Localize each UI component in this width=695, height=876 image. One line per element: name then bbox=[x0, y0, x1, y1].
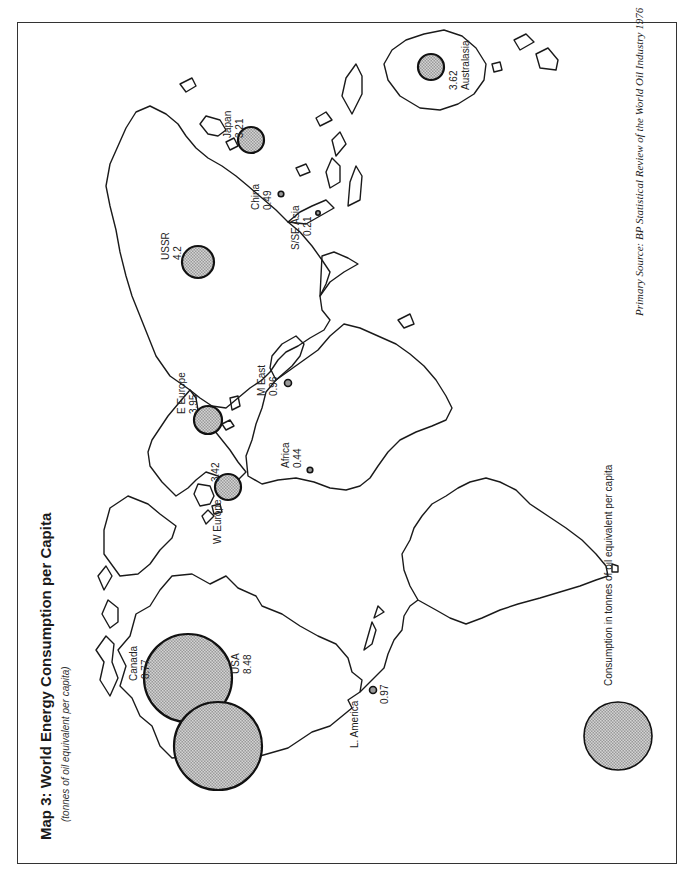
label-canada: Canada 8.77 bbox=[128, 646, 152, 681]
world-map bbox=[0, 0, 695, 876]
bubble-m-east bbox=[285, 380, 292, 387]
greenland-outline bbox=[104, 496, 176, 576]
bubble-africa bbox=[307, 467, 313, 473]
bubble-s-se-asia bbox=[316, 211, 320, 215]
british-isles-outline bbox=[194, 484, 214, 506]
asia-outline bbox=[106, 106, 330, 408]
bubble-l-america bbox=[370, 687, 377, 694]
bubble-usa bbox=[174, 702, 262, 790]
legend-label: Consumption in tonnes of oil equivalent … bbox=[603, 465, 614, 686]
rotated-map-sheet: Map 3: World Energy Consumption per Capi… bbox=[0, 0, 695, 876]
label-e-europe: E Europe 3.95 bbox=[176, 372, 200, 414]
bubble-australasia bbox=[418, 54, 444, 80]
new-zealand-outline bbox=[514, 34, 534, 50]
label-africa: Africa 0.44 bbox=[280, 442, 304, 468]
new-guinea-outline bbox=[342, 64, 362, 114]
label-usa: USA 8.48 bbox=[230, 653, 254, 674]
label-ussr: USSR 4.2 bbox=[160, 232, 184, 260]
arctic-islands-outline bbox=[96, 636, 118, 696]
label-china: China 0.49 bbox=[250, 184, 274, 210]
africa-outline bbox=[246, 324, 452, 490]
bubble-ussr bbox=[182, 246, 214, 278]
label-australasia: 3.62 Australasia bbox=[448, 41, 472, 90]
label-japan: Japan 3.21 bbox=[222, 111, 246, 138]
label-s-se-asia: S/SE Asia 0.21 bbox=[290, 206, 314, 250]
label-m-east: M East 0.96 bbox=[256, 365, 280, 396]
value-w-europe: 3.42 bbox=[210, 463, 222, 482]
south-america-outline bbox=[402, 478, 608, 624]
map-page: Map 3: World Energy Consumption per Capi… bbox=[0, 0, 695, 876]
label-l-america: L. America bbox=[349, 701, 361, 748]
label-w-europe: W Europe bbox=[212, 500, 224, 544]
legend-bubble bbox=[584, 702, 652, 770]
bubble-china bbox=[278, 191, 284, 197]
value-l-america: 0.97 bbox=[379, 685, 391, 704]
india-outline bbox=[320, 252, 358, 296]
source-citation: Primary Source: BP Statistical Review of… bbox=[633, 8, 645, 316]
